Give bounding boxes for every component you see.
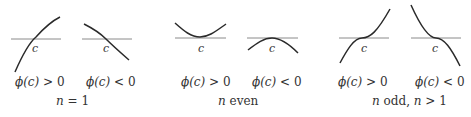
condition-label: ϕ(c) < 0 bbox=[252, 75, 302, 89]
condition-label: ϕ(c) < 0 bbox=[415, 75, 465, 89]
panel-n-odd: c ϕ(c) > 0 c ϕ(c) < 0 n odd, n > 1 bbox=[338, 5, 465, 108]
panel-caption: n odd, n > 1 bbox=[372, 94, 447, 108]
point-label: c bbox=[361, 42, 367, 55]
point-label: c bbox=[198, 42, 204, 55]
point-label: c bbox=[432, 42, 438, 55]
plot-decreasing: c ϕ(c) < 0 bbox=[82, 24, 136, 89]
condition-label: ϕ(c) > 0 bbox=[181, 75, 231, 89]
point-label: c bbox=[103, 42, 109, 55]
condition-label: ϕ(c) > 0 bbox=[338, 75, 388, 89]
panel-caption: n even bbox=[218, 94, 259, 108]
diagram-canvas: c ϕ(c) > 0 c ϕ(c) < 0 n = 1 c ϕ(c) > 0 c… bbox=[0, 0, 471, 117]
plot-inflection-increasing: c ϕ(c) > 0 bbox=[338, 9, 390, 89]
condition-label: ϕ(c) < 0 bbox=[86, 75, 136, 89]
curve bbox=[175, 23, 226, 37]
plot-maximum: c ϕ(c) < 0 bbox=[247, 38, 302, 89]
point-label: c bbox=[269, 42, 275, 55]
panel-n-1: c ϕ(c) > 0 c ϕ(c) < 0 n = 1 bbox=[11, 17, 136, 108]
plot-inflection-decreasing: c ϕ(c) < 0 bbox=[411, 5, 465, 89]
plot-minimum: c ϕ(c) > 0 bbox=[175, 23, 231, 89]
point-label: c bbox=[32, 42, 38, 55]
panel-caption: n = 1 bbox=[56, 94, 89, 108]
panel-n-even: c ϕ(c) > 0 c ϕ(c) < 0 n even bbox=[175, 23, 302, 108]
curve bbox=[411, 5, 460, 66]
condition-label: ϕ(c) > 0 bbox=[15, 75, 65, 89]
plot-increasing: c ϕ(c) > 0 bbox=[11, 17, 65, 89]
